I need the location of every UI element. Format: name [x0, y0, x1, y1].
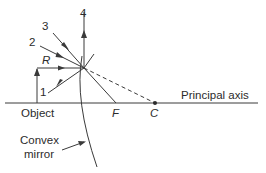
label-ray-4: 4: [80, 7, 87, 19]
object-arrowhead-icon: [34, 68, 40, 76]
convex-mirror-diagram: 4 3 2 R 1 Object F C Principal axis Conv…: [0, 0, 266, 173]
label-ray-r: R: [42, 54, 50, 66]
label-focus: F: [112, 107, 120, 119]
ray-2-arrowhead-icon: [56, 52, 65, 58]
ray-3: [53, 33, 84, 68]
mirror-pointer-arrowhead-icon: [78, 141, 86, 146]
label-ray-1: 1: [40, 86, 46, 98]
label-principal-axis: Principal axis: [181, 89, 249, 101]
center-point: [153, 101, 157, 105]
label-mirror-line1: Convex: [20, 134, 59, 146]
label-mirror-line2: mirror: [24, 148, 54, 160]
label-center: C: [150, 107, 159, 119]
dashed-line-to-center: [84, 68, 155, 103]
normal-line: [84, 54, 94, 68]
ray-to-focus: [84, 68, 116, 103]
ray-r-arrowhead-icon: [58, 66, 65, 71]
label-ray-2: 2: [29, 36, 35, 48]
label-ray-3: 3: [42, 20, 48, 32]
diagram-canvas: 4 3 2 R 1 Object F C Principal axis Conv…: [0, 0, 266, 173]
ray-1: [48, 68, 84, 93]
label-object: Object: [21, 107, 55, 119]
ray-4-arrowhead-icon: [81, 30, 87, 38]
